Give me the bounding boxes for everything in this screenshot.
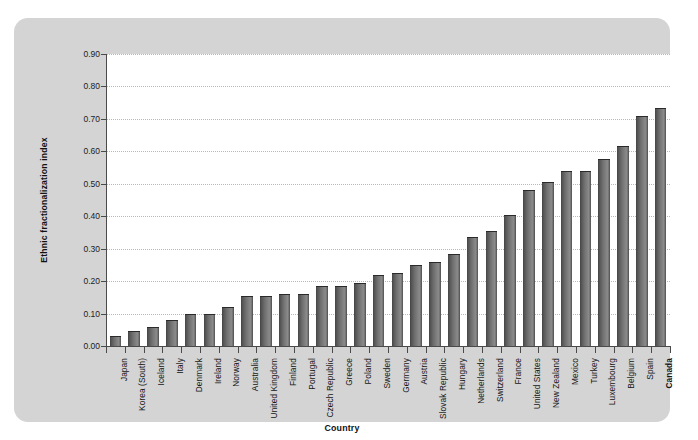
bar-column[interactable] (632, 54, 651, 346)
x-axis-tick-mark (538, 347, 539, 353)
bar-column[interactable] (181, 54, 200, 346)
bar[interactable] (204, 314, 216, 346)
y-axis-tick-label: 0.50 (70, 179, 100, 189)
y-axis-tick-label: 0.00 (70, 341, 100, 351)
x-axis-tick-mark (651, 347, 652, 353)
bar-column[interactable] (256, 54, 275, 346)
x-axis-tick-mark (614, 347, 615, 353)
x-axis-tick-mark (275, 347, 276, 353)
bar-column[interactable] (275, 54, 294, 346)
bar[interactable] (241, 296, 253, 346)
x-axis-category-label: Italy (175, 358, 185, 374)
x-axis-tick-mark (181, 347, 182, 353)
x-axis-category-label: United Kingdom (269, 358, 279, 418)
bar-column[interactable] (651, 54, 670, 346)
bar-column[interactable] (520, 54, 539, 346)
x-axis-tick-mark (501, 347, 502, 353)
x-axis-category-label: Finland (288, 358, 298, 386)
bar-column[interactable] (106, 54, 125, 346)
bar[interactable] (316, 286, 328, 346)
bar[interactable] (260, 296, 272, 346)
bar-column[interactable] (200, 54, 219, 346)
bar-column[interactable] (407, 54, 426, 346)
x-axis-tick-mark (332, 347, 333, 353)
x-axis-category-label: Poland (363, 358, 373, 384)
bar[interactable] (523, 190, 535, 346)
x-axis-category-label: Czech Republic (325, 358, 335, 418)
bar-column[interactable] (350, 54, 369, 346)
bar[interactable] (486, 231, 498, 346)
y-axis-tick-label: 0.20 (70, 276, 100, 286)
bar-column[interactable] (538, 54, 557, 346)
x-axis-tick-mark (313, 347, 314, 353)
bar[interactable] (429, 262, 441, 346)
bar[interactable] (467, 237, 479, 346)
chart-panel: Ethnic fractionalization index 0.900.800… (14, 18, 670, 422)
bar[interactable] (373, 275, 385, 346)
bar-column[interactable] (162, 54, 181, 346)
bar[interactable] (298, 294, 310, 346)
bar-column[interactable] (388, 54, 407, 346)
bar-column[interactable] (614, 54, 633, 346)
bar-column[interactable] (557, 54, 576, 346)
bar[interactable] (504, 215, 516, 346)
bar[interactable] (410, 265, 422, 346)
bar[interactable] (147, 327, 159, 346)
x-axis-tick-mark (200, 347, 201, 353)
bar-column[interactable] (595, 54, 614, 346)
x-axis-tick-mark (388, 347, 389, 353)
bar-column[interactable] (313, 54, 332, 346)
bar[interactable] (598, 159, 610, 346)
bar-column[interactable] (238, 54, 257, 346)
bar[interactable] (655, 108, 667, 346)
bar[interactable] (617, 146, 629, 346)
bar[interactable] (561, 171, 573, 346)
x-axis-tick-mark (426, 347, 427, 353)
x-axis-category-label: United States (532, 358, 542, 409)
x-axis-tick-mark (238, 347, 239, 353)
x-axis-tick-mark (219, 347, 220, 353)
y-axis-title: Ethnic fractionalization index (39, 137, 49, 262)
bar[interactable] (448, 254, 460, 346)
y-axis-tick-label: 0.10 (70, 309, 100, 319)
x-axis-category-label: Canada (664, 358, 674, 389)
bar[interactable] (110, 336, 122, 346)
bar-column[interactable] (463, 54, 482, 346)
bar[interactable] (542, 182, 554, 346)
y-axis-tick-label: 0.60 (70, 146, 100, 156)
x-axis-tick-mark (294, 347, 295, 353)
y-axis-tick-label: 0.70 (70, 114, 100, 124)
bar[interactable] (166, 320, 178, 346)
bar[interactable] (392, 273, 404, 346)
x-axis-category-label: France (513, 358, 523, 384)
bar-column[interactable] (369, 54, 388, 346)
bar-column[interactable] (576, 54, 595, 346)
bar-column[interactable] (501, 54, 520, 346)
page-header-artifact (540, 0, 690, 7)
bar-column[interactable] (125, 54, 144, 346)
bar[interactable] (354, 283, 366, 346)
x-axis-category-label: Turkey (589, 358, 599, 384)
bar[interactable] (279, 294, 291, 346)
bar[interactable] (185, 314, 197, 346)
chart-page: Ethnic fractionalization index 0.900.800… (0, 0, 698, 440)
bar-column[interactable] (144, 54, 163, 346)
x-axis-tick-mark (369, 347, 370, 353)
y-axis-tick-label: 0.80 (70, 81, 100, 91)
bar[interactable] (128, 331, 140, 346)
bar-column[interactable] (332, 54, 351, 346)
bar-column[interactable] (294, 54, 313, 346)
bar[interactable] (636, 116, 648, 346)
x-axis-category-label: Mexico (570, 358, 580, 385)
bar[interactable] (580, 171, 592, 346)
x-axis-category-label: Germany (401, 358, 411, 393)
x-axis-tick-mark (256, 347, 257, 353)
bar-column[interactable] (426, 54, 445, 346)
bar-column[interactable] (219, 54, 238, 346)
bar-column[interactable] (444, 54, 463, 346)
bar[interactable] (222, 307, 234, 346)
bar-column[interactable] (482, 54, 501, 346)
x-axis-tick-mark (576, 347, 577, 353)
x-axis-category-label: Netherlands (476, 358, 486, 404)
bar[interactable] (335, 286, 347, 346)
